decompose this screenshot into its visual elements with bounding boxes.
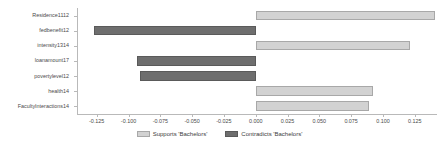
legend-item-contradicts: Contradicts 'Bachelors' [225, 131, 302, 137]
x-axis-tick [224, 114, 225, 117]
y-axis-label-intensity1314: intensity1314 [37, 38, 69, 53]
bar-row: loanamount17 [77, 53, 437, 68]
horizontal-bar-chart: Residence1112fedbenefit12intensity1314lo… [0, 0, 439, 151]
x-axis-tick-label: -0.125 [89, 118, 104, 124]
y-axis-label-loanamount17: loanamount17 [35, 53, 69, 68]
x-axis-tick [129, 114, 130, 117]
bar-FacultyInteractions14 [256, 101, 369, 111]
y-axis-tick [74, 76, 77, 77]
bar-row: fedbenefit12 [77, 23, 437, 38]
y-axis-tick [74, 106, 77, 107]
x-axis-tick [192, 114, 193, 117]
bar-health14 [256, 86, 373, 96]
x-axis-tick-label: -0.100 [121, 118, 136, 124]
x-axis-tick-label: 0.000 [249, 118, 263, 124]
y-axis-tick [74, 91, 77, 92]
plot-area: Residence1112fedbenefit12intensity1314lo… [77, 8, 437, 114]
bar-Residence1112 [256, 11, 435, 21]
x-axis-tick-label: 0.100 [376, 118, 390, 124]
y-axis-tick [74, 31, 77, 32]
y-axis-label-povertylevel12: povertylevel12 [34, 69, 69, 84]
y-axis-label-Residence1112: Residence1112 [32, 8, 69, 23]
bar-row: health14 [77, 84, 437, 99]
x-axis-tick [288, 114, 289, 117]
x-axis-tick [383, 114, 384, 117]
legend-label-supports: Supports 'Bachelors' [153, 131, 208, 137]
x-axis-tick [256, 114, 257, 117]
y-axis-label-fedbenefit12: fedbenefit12 [39, 23, 69, 38]
legend-swatch-contradicts-icon [225, 131, 238, 137]
x-axis-tick [97, 114, 98, 117]
x-axis-tick-label: -0.025 [216, 118, 231, 124]
x-axis-tick-label: -0.050 [184, 118, 199, 124]
bar-intensity1314 [256, 41, 410, 51]
y-axis-label-FacultyInteractions14: FacultyInteractions14 [18, 99, 69, 114]
bar-row: povertylevel12 [77, 69, 437, 84]
x-axis-tick-label: 0.075 [344, 118, 358, 124]
legend-item-supports: Supports 'Bachelors' [137, 131, 208, 137]
bar-row: FacultyInteractions14 [77, 99, 437, 114]
y-axis-tick [74, 61, 77, 62]
legend-label-contradicts: Contradicts 'Bachelors' [241, 131, 302, 137]
legend-swatch-supports-icon [137, 131, 150, 137]
x-axis-tick [160, 114, 161, 117]
y-axis-tick [74, 46, 77, 47]
bar-row: Residence1112 [77, 8, 437, 23]
x-axis-tick-label: 0.025 [281, 118, 295, 124]
y-axis-tick [74, 16, 77, 17]
y-axis-label-health14: health14 [48, 84, 69, 99]
bar-loanamount17 [137, 56, 255, 66]
x-axis-tick-label: -0.075 [153, 118, 168, 124]
bar-povertylevel12 [140, 71, 256, 81]
x-axis-tick [351, 114, 352, 117]
bar-fedbenefit12 [94, 26, 256, 36]
bar-row: intensity1314 [77, 38, 437, 53]
x-axis-tick-label: 0.125 [408, 118, 422, 124]
x-axis-tick-label: 0.050 [313, 118, 327, 124]
x-axis-tick [415, 114, 416, 117]
x-axis-tick [319, 114, 320, 117]
chart-legend: Supports 'Bachelors' Contradicts 'Bachel… [0, 131, 439, 137]
